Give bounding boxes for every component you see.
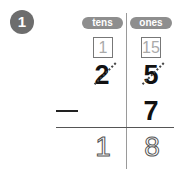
subtrahend-ones-digit: 7	[141, 98, 161, 125]
answer-line	[56, 127, 174, 128]
tens-column-label: tens	[82, 17, 123, 29]
ones-column-label: ones	[130, 17, 172, 29]
answer-tens-digit: 1	[92, 132, 114, 162]
column-divider	[126, 13, 127, 169]
tens-regroup-box: 1	[93, 37, 113, 58]
problem-number-badge: 1	[10, 10, 34, 34]
ones-regroup-box: 15	[141, 37, 161, 58]
minus-sign	[56, 110, 78, 112]
answer-ones-digit: 8	[141, 132, 163, 162]
